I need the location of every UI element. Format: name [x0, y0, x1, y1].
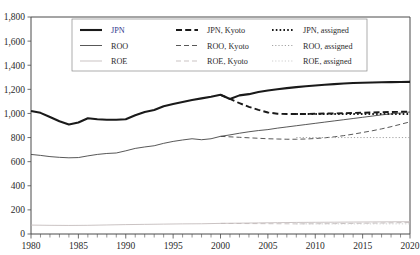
y-tick-label: 400	[11, 181, 26, 191]
x-tick-label: 2020	[401, 241, 420, 251]
y-tick-label: 1,000	[4, 109, 26, 119]
y-tick-label: 0	[20, 229, 25, 239]
y-tick-label: 1,200	[4, 85, 26, 95]
legend-label: ROE, Kyoto	[207, 57, 248, 66]
emissions-line-chart: 02004006008001,0001,2001,4001,6001,800 1…	[0, 0, 420, 255]
legend-label: ROE, assigned	[303, 57, 352, 66]
x-tick-label: 2010	[306, 241, 325, 251]
y-axis-ticks	[28, 17, 32, 234]
x-tick-label: 2005	[258, 241, 277, 251]
y-tick-label: 1,800	[4, 12, 26, 22]
x-tick-label: 1985	[69, 241, 88, 251]
legend-label: ROO	[111, 42, 128, 51]
series-jpn-kyoto	[221, 95, 411, 114]
x-tick-label: 1995	[164, 241, 183, 251]
y-tick-label: 200	[11, 205, 26, 215]
y-axis-labels: 02004006008001,0001,2001,4001,6001,800	[4, 12, 26, 239]
legend-label: ROE	[111, 57, 127, 66]
x-tick-label: 2000	[211, 241, 230, 251]
y-tick-label: 1,600	[4, 37, 26, 47]
series-roo-kyoto	[221, 122, 411, 139]
legend-label: JPN	[111, 26, 125, 35]
y-tick-label: 800	[11, 133, 26, 143]
legend-label: ROO, assigned	[303, 42, 353, 51]
data-series-group	[31, 82, 410, 226]
x-tick-label: 1990	[116, 241, 135, 251]
chart-canvas: 02004006008001,0001,2001,4001,6001,800 1…	[0, 0, 420, 255]
legend: JPNJPN, KyotoJPN, assignedROOROO, KyotoR…	[72, 19, 367, 71]
y-tick-label: 600	[11, 157, 26, 167]
x-axis-ticks	[31, 234, 410, 239]
x-tick-label: 2015	[353, 241, 372, 251]
legend-label: ROO, Kyoto	[207, 42, 249, 51]
legend-label: JPN, assigned	[303, 26, 349, 35]
legend-label: JPN, Kyoto	[207, 26, 245, 35]
x-tick-label: 1980	[22, 241, 41, 251]
y-tick-label: 1,400	[4, 61, 26, 71]
x-axis-labels: 198019851990199520002005201020152020	[22, 241, 420, 251]
